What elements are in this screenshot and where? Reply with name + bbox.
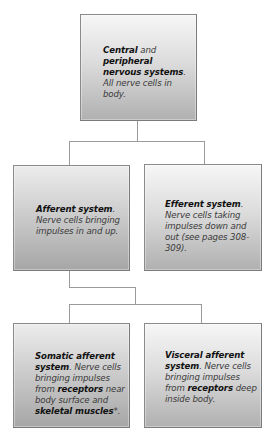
node-afferent-text: Afferent system. Nerve cells bringing im… xyxy=(36,204,126,237)
term-afferent-system: Afferent system xyxy=(36,204,112,214)
term-skeletal-muscles: skeletal muscles xyxy=(35,406,114,416)
term-receptors: receptors xyxy=(187,383,233,393)
connector-afferent-down xyxy=(69,270,70,287)
connector-to-somatic xyxy=(69,304,70,323)
term-receptors: receptors xyxy=(57,384,103,394)
connector-level2-horizontal xyxy=(69,304,202,305)
term-central: Central xyxy=(103,45,138,55)
node-visceral-text: Visceral afferent system. Nerve cells br… xyxy=(165,350,257,405)
somatic-text-3: *. xyxy=(114,406,121,416)
term-peripheral-nervous-systems: peripheral nervous systems xyxy=(103,56,183,77)
node-somatic-text: Somatic afferent system. Nerve cells bri… xyxy=(35,351,127,417)
term-efferent-system: Efferent system xyxy=(165,199,241,209)
connector-to-efferent xyxy=(204,141,205,165)
connector-level1-horizontal xyxy=(69,141,205,142)
node-root-text: Central and peripheral nervous systems. … xyxy=(103,45,193,100)
connector-afferent-jog xyxy=(69,287,136,288)
connector-to-afferent xyxy=(69,141,70,165)
connector-jog-down xyxy=(135,287,136,304)
node-efferent-text: Efferent system. Nerve cells taking impu… xyxy=(165,199,260,254)
connector-to-visceral xyxy=(201,304,202,323)
connector-root-down xyxy=(137,121,138,141)
root-text-1: and xyxy=(138,45,157,55)
